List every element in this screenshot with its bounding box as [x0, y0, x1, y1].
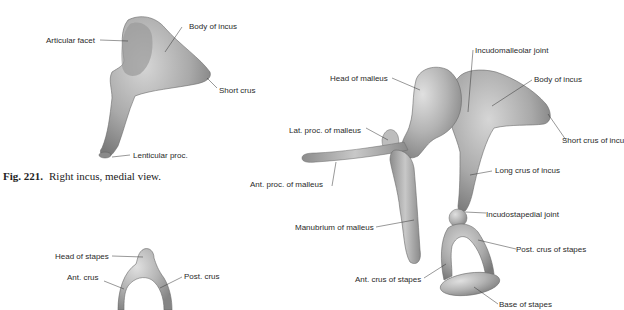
label-body-of-incus-2: Body of incus: [534, 75, 582, 84]
caption-number: Fig. 221.: [3, 170, 43, 182]
stapes-illustration: [118, 249, 172, 310]
label-head-of-stapes: Head of stapes: [55, 252, 109, 261]
label-ant-crus-of-stapes: Ant. crus of stapes: [355, 275, 421, 284]
label-ant-crus: Ant. crus: [67, 273, 99, 282]
label-body-of-incus: Body of incus: [189, 22, 237, 31]
label-incudomalleolar-joint: Incudomalleolar joint: [475, 46, 548, 55]
label-short-crus: Short crus: [219, 86, 255, 95]
label-post-crus: Post. crus: [184, 272, 220, 281]
figure-caption: Fig. 221.Right incus, medial view.: [3, 170, 161, 182]
label-base-of-stapes: Base of stapes: [499, 300, 552, 309]
label-lat-proc-of-malleus: Lat. proc. of malleus: [289, 126, 361, 135]
label-short-crus-of-incus: Short crus of incu: [562, 136, 624, 145]
label-articular-facet: Articular facet: [46, 36, 95, 45]
label-long-crus-of-incus: Long crus of incus: [495, 166, 560, 175]
label-manubrium-of-malleus: Manubrium of malleus: [295, 223, 374, 232]
caption-text: Right incus, medial view.: [49, 170, 161, 182]
label-ant-proc-of-malleus: Ant. proc. of malleus: [250, 180, 323, 189]
label-incudostapedial-joint: Incudostapedial joint: [486, 210, 559, 219]
ossicular-chain-illustration: [302, 67, 550, 299]
label-post-crus-of-stapes: Post. crus of stapes: [516, 245, 586, 254]
incus-illustration: [99, 17, 210, 158]
label-lenticular-proc: Lenticular proc.: [133, 151, 188, 160]
label-head-of-malleus: Head of malleus: [330, 74, 388, 83]
